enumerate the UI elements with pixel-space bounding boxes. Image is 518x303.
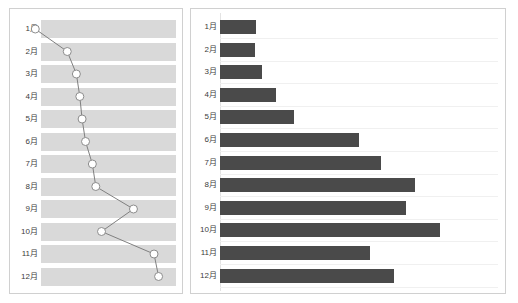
monthly-trend-line-chart-panel: 1月2月3月4月5月6月7月8月9月10月11月12月 [9,8,183,294]
bar-chart-row: 4月 [191,84,505,106]
bar-chart-row: 11月 [191,242,505,264]
bar-chart-category-label: 5月 [191,106,217,128]
bar-chart-row: 1月 [191,16,505,38]
bar-chart-category-label: 9月 [191,197,217,219]
bar-chart-bar-9 [220,201,406,215]
bar-chart-row: 3月 [191,61,505,83]
bar-chart-row: 7月 [191,152,505,174]
bar-chart-row: 6月 [191,129,505,151]
line-chart-polyline [35,29,158,277]
line-chart-data-point-12 [155,273,163,281]
bar-chart-category-label: 7月 [191,152,217,174]
bar-chart-category-label: 4月 [191,84,217,106]
bar-chart-bar-7 [220,156,381,170]
bar-chart-row: 9月 [191,197,505,219]
line-chart-data-point-7 [88,160,96,168]
line-chart-series [10,9,184,295]
bar-chart-category-label: 8月 [191,174,217,196]
bar-chart-row: 2月 [191,39,505,61]
bar-chart-bar-10 [220,223,440,237]
line-chart-data-point-9 [129,205,137,213]
line-chart-data-point-2 [63,48,71,56]
bar-chart-bar-3 [220,65,262,79]
bar-chart-category-label: 11月 [191,242,217,264]
line-chart-data-point-8 [92,183,100,191]
line-chart-data-point-4 [76,93,84,101]
line-chart-data-point-10 [98,228,106,236]
bar-chart-bar-12 [220,269,394,283]
bar-chart-category-label: 1月 [191,16,217,38]
line-chart-data-point-3 [72,70,80,78]
line-chart-data-point-1 [31,25,39,33]
bar-chart-bar-4 [220,88,276,102]
bar-chart-category-label: 12月 [191,265,217,287]
bar-chart-category-label: 3月 [191,61,217,83]
bar-chart-bar-8 [220,178,415,192]
bar-chart-bar-1 [220,20,256,34]
bar-chart-gridline [220,287,498,288]
bar-chart-bar-2 [220,43,255,57]
bar-chart-row: 8月 [191,174,505,196]
line-chart-data-point-6 [82,138,90,146]
bar-chart-row: 10月 [191,219,505,241]
bar-chart-category-label: 6月 [191,129,217,151]
bar-chart-bar-6 [220,133,359,147]
bar-chart-category-label: 2月 [191,39,217,61]
bar-chart-row: 5月 [191,106,505,128]
bar-chart-category-label: 10月 [191,219,217,241]
line-chart-data-point-11 [150,250,158,258]
bar-chart-bar-5 [220,110,294,124]
bar-chart-bar-11 [220,246,370,260]
line-chart-data-point-5 [78,115,86,123]
bar-chart-row: 12月 [191,265,505,287]
monthly-values-bar-chart-panel: 1月2月3月4月5月6月7月8月9月10月11月12月 [190,8,506,294]
